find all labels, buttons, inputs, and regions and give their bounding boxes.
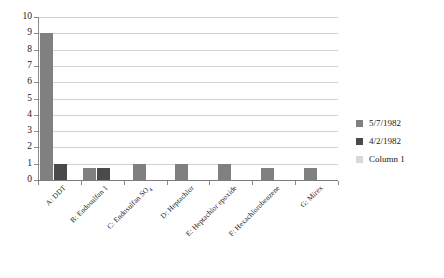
x-axis-labels: A: DDTB: Endosulfan 1C: Endosulfan SO4D:… [38, 181, 338, 278]
bar [97, 168, 110, 180]
x-axis-label: D: Heptachlor [159, 184, 195, 220]
x-tick-mark [338, 181, 339, 185]
legend-swatch [356, 138, 363, 145]
bar [83, 168, 96, 180]
bar-group [252, 17, 295, 180]
x-axis-label: B: Endosulfan 1 [69, 184, 109, 224]
y-tick-label: 9 [27, 29, 32, 39]
bar [40, 33, 53, 180]
bar [261, 168, 274, 180]
bar [218, 164, 231, 180]
y-tick-label: 7 [27, 61, 32, 71]
y-tick-label: 5 [27, 94, 32, 104]
y-tick-label: 6 [27, 77, 32, 87]
y-tick-label: 10 [23, 12, 33, 22]
legend-swatch [356, 156, 363, 163]
bar [175, 164, 188, 180]
bar [304, 168, 317, 180]
bar-group [209, 17, 252, 180]
x-axis-label: A: DDT [44, 184, 67, 207]
chart-legend: 5/7/19824/2/1982Column 1 [356, 114, 442, 168]
legend-label: Column 1 [369, 155, 405, 164]
legend-item[interactable]: Column 1 [356, 150, 442, 168]
legend-item[interactable]: 4/2/1982 [356, 132, 442, 150]
y-tick-label: 0 [27, 175, 32, 185]
bar-group [38, 17, 81, 180]
bar-group [124, 17, 167, 180]
bar [133, 164, 146, 180]
y-tick-label: 2 [27, 143, 32, 153]
y-tick-label: 4 [27, 110, 32, 120]
y-tick-label: 3 [27, 126, 32, 136]
y-tick-label: 1 [27, 159, 32, 169]
bar-group [167, 17, 210, 180]
bar-group [295, 17, 338, 180]
bar [54, 164, 67, 180]
bar-group [81, 17, 124, 180]
y-tick-label: 8 [27, 45, 32, 55]
x-axis-label: G: Mirex [299, 184, 324, 209]
x-axis-label: C: Endosulfan SO4 [106, 184, 154, 232]
legend-label: 5/7/1982 [369, 119, 401, 128]
plot-area: 012345678910 [38, 17, 338, 181]
legend-item[interactable]: 5/7/1982 [356, 114, 442, 132]
legend-swatch [356, 120, 363, 127]
bar-chart: 012345678910 A: DDTB: Endosulfan 1C: End… [0, 0, 444, 278]
legend-label: 4/2/1982 [369, 137, 401, 146]
